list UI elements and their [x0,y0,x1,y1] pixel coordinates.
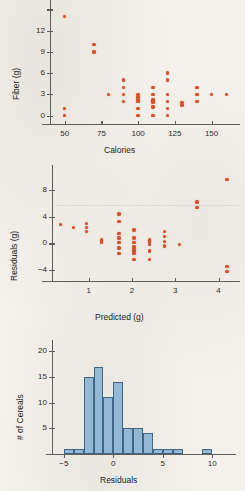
chart2-y-axis [52,165,53,281]
histogram-bar [103,397,113,454]
chart1-y-tick [47,31,53,32]
data-point [166,107,169,110]
histogram-bar [163,449,173,454]
data-point [63,107,66,110]
chart1-x-tick [65,121,66,125]
data-point [163,240,166,243]
figure-page: 5075100125150036912 Fiber (g) Calories 1… [0,0,245,491]
chart2-y-tick [49,217,55,218]
data-point [166,114,169,117]
chart2-y-tick-label: −4 [28,266,47,274]
data-point [107,93,110,96]
data-point [136,107,139,110]
data-point [151,101,154,104]
chart2-x-tick-label: 3 [169,287,181,295]
chart2-y-tick [49,243,55,244]
chart2-x-tick [175,278,176,282]
histogram-bar [202,449,212,454]
data-point [117,212,120,215]
chart-histogram-of-residuals: −505105101520 # of Cereals Residuals [0,332,245,491]
data-point [180,103,183,106]
data-point [92,43,95,46]
data-point [122,78,125,81]
chart2-y-tick [49,190,55,191]
chart3-y-axis [52,340,53,454]
chart1-x-tick [138,121,139,125]
data-point [148,243,151,246]
data-point [59,223,62,226]
data-point [195,200,198,203]
chart1-y-axis [50,0,51,124]
data-point [163,244,166,247]
chart1-y-tick-label: 9 [28,48,45,56]
chart1-y-tick [47,9,53,10]
chart1-y-tick-label: 6 [28,69,45,77]
data-point [132,258,135,261]
data-point [166,100,169,103]
chart1-x-tick-label: 125 [168,130,182,138]
chart2-y-axis-title: Residuals (g) [10,231,19,281]
chart1-x-tick-label: 75 [94,130,108,138]
data-point [63,114,66,117]
chart3-x-axis-title: Residuals [100,476,137,485]
chart2-x-axis-title: Predicted (g) [95,313,144,322]
data-point [63,15,66,18]
data-point [225,93,228,96]
data-point [148,249,151,252]
chart3-x-tick-label: 0 [105,460,121,468]
data-point [117,236,120,239]
data-point [225,270,228,273]
chart2-x-axis [42,281,240,282]
data-point [92,50,95,53]
data-point [166,71,169,74]
chart2-x-tick [89,278,90,282]
data-point [178,243,181,246]
data-point [151,86,154,89]
chart1-y-tick [47,73,53,74]
chart3-x-tick-label: −5 [56,460,72,468]
data-point [166,93,169,96]
chart3-y-tick [49,351,55,352]
data-point [148,258,151,261]
data-point [85,230,88,233]
data-point [132,236,135,239]
chart3-y-tick [49,403,55,404]
chart1-y-tick [47,94,53,95]
data-point [163,230,166,233]
data-point [132,241,135,244]
chart2-y-tick-label: 4 [28,213,47,221]
chart2-y-tick-label: 8 [28,186,47,194]
chart3-x-tick [64,454,65,458]
data-point [136,114,139,117]
data-point [136,100,139,103]
chart2-x-tick-label: 2 [126,287,138,295]
chart2-y-tick-label: 0 [28,239,47,247]
chart3-y-tick [49,377,55,378]
chart1-x-tick [101,121,102,125]
chart2-faint-rule [54,205,240,206]
data-point [163,235,166,238]
data-point [195,93,198,96]
data-point [195,86,198,89]
chart2-x-tick [132,278,133,282]
data-point [85,222,88,225]
chart-residuals-vs-predicted: 1234−4048 Residuals (g) Predicted (g) [0,163,245,328]
chart2-x-tick-label: 1 [83,287,95,295]
chart1-y-tick-label: 3 [28,90,45,98]
histogram-bar [133,428,143,454]
chart1-x-axis-title: Calories [104,146,135,155]
chart1-y-tick [47,116,53,117]
data-point [117,232,120,235]
chart1-x-tick-label: 100 [131,130,145,138]
data-point [117,252,120,255]
chart3-x-tick [163,454,164,458]
chart1-x-tick-label: 50 [58,130,72,138]
data-point [122,93,125,96]
data-point [210,93,213,96]
chart1-y-axis-title: Fiber (g) [12,68,21,100]
chart3-x-axis [46,454,236,455]
chart1-x-axis [42,124,240,125]
chart3-y-tick-label: 20 [28,347,47,355]
data-point [151,105,154,108]
histogram-bar [143,433,153,454]
